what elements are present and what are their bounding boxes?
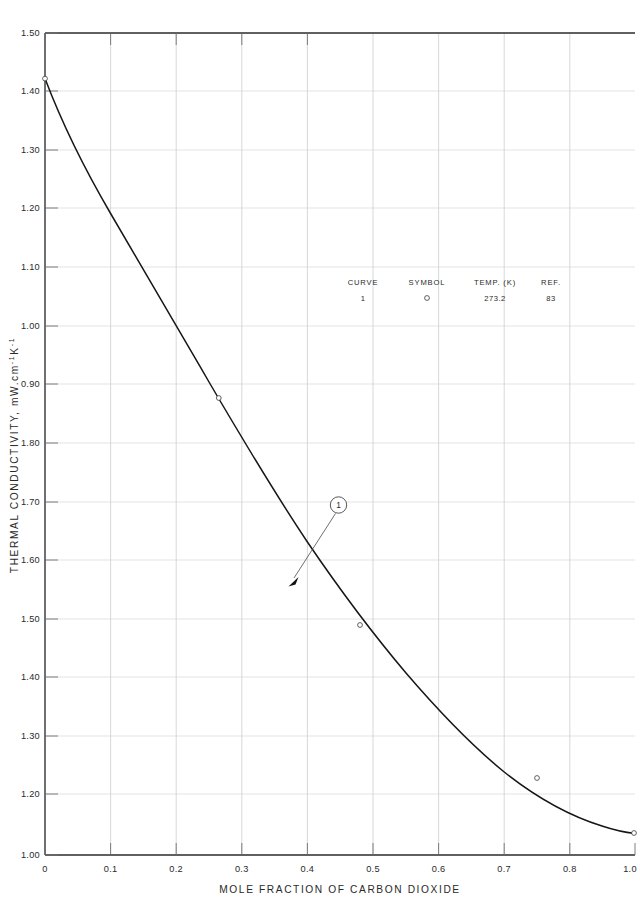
y-axis-title-main: THERMAL CONDUCTIVITY, mW.cm	[9, 364, 20, 573]
data-point-markers	[43, 76, 637, 835]
x-tick-label: 0.2	[169, 864, 183, 874]
y-tick-label: 1.20	[21, 789, 40, 799]
y-tick-label: 1.20	[21, 203, 40, 213]
data-point-marker	[43, 76, 48, 81]
y-tick-label: 1.50	[21, 614, 40, 624]
x-tick-label: 0.5	[366, 864, 380, 874]
figure-container: 1.50 1.40 1.30 1.20 1.10 1.00 0.90 1.80 …	[0, 0, 640, 908]
x-tick-label: 0.7	[497, 864, 511, 874]
y-tick-label: 1.30	[21, 145, 40, 155]
callout-label: 1	[336, 500, 341, 510]
y-tick-label: 1.80	[21, 438, 40, 448]
y-tick-label: 1.00	[21, 850, 40, 860]
x-tick-label: 0.4	[301, 864, 315, 874]
y-tick-label: 0.90	[21, 379, 40, 389]
legend-symbol-open-circle-icon	[425, 296, 430, 301]
legend-header-symbol: SYMBOL	[409, 278, 446, 287]
legend-header-curve: CURVE	[348, 278, 379, 287]
x-tick-label: 0.6	[432, 864, 446, 874]
x-tick-label: 0.1	[104, 864, 118, 874]
legend-cell-curve: 1	[361, 294, 366, 303]
data-point-marker	[358, 623, 363, 628]
data-point-marker	[535, 776, 540, 781]
x-axis-title: MOLE FRACTION OF CARBON DIOXIDE	[219, 884, 460, 895]
svg-text:THERMAL CONDUCTIVITY, mW.cm-1K: THERMAL CONDUCTIVITY, mW.cm-1K-1	[8, 337, 20, 573]
x-axis-tick-labels: 0 0.1 0.2 0.3 0.4 0.5 0.6 0.7 0.8 1.0	[42, 864, 637, 874]
x-tick-label: 1.0	[623, 864, 637, 874]
horizontal-gridlines	[45, 91, 635, 794]
vertical-gridlines	[111, 33, 570, 855]
x-tick-label: 0.8	[563, 864, 577, 874]
y-tick-label: 1.40	[21, 672, 40, 682]
legend-cell-temp: 273.2	[484, 294, 506, 303]
y-tick-label: 1.50	[21, 28, 40, 38]
legend-row: 1 273.2 83	[361, 294, 556, 303]
y-tick-label: 1.10	[21, 262, 40, 272]
callout-arrowhead-icon	[289, 577, 299, 587]
curve-callout-1: 1	[289, 497, 347, 587]
x-tick-label: 0	[42, 864, 47, 874]
x-axis-ticks	[45, 33, 635, 855]
y-tick-label: 1.40	[21, 86, 40, 96]
y-tick-label: 1.00	[21, 321, 40, 331]
y-axis-title-exp1: -1	[8, 355, 15, 364]
data-curve-1	[45, 79, 635, 834]
y-axis-ticks	[45, 33, 58, 855]
y-axis-title-k: K	[9, 346, 20, 354]
y-tick-label: 1.30	[21, 731, 40, 741]
y-tick-label: 1.70	[21, 497, 40, 507]
y-axis-tick-labels: 1.50 1.40 1.30 1.20 1.10 1.00 0.90 1.80 …	[21, 28, 40, 860]
axis-frame	[45, 33, 635, 855]
legend-cell-ref: 83	[546, 294, 555, 303]
x-tick-label: 0.3	[235, 864, 249, 874]
legend-header-ref: REF.	[541, 278, 561, 287]
chart-svg: 1.50 1.40 1.30 1.20 1.10 1.00 0.90 1.80 …	[0, 0, 640, 908]
y-axis-title: THERMAL CONDUCTIVITY, mW.cm-1K-1	[8, 337, 20, 573]
data-point-marker	[632, 831, 637, 836]
legend-header-temp: TEMP. (K)	[474, 278, 516, 287]
y-tick-label: 1.60	[21, 555, 40, 565]
legend-table: CURVE SYMBOL TEMP. (K) REF. 1 273.2 83	[348, 278, 561, 303]
data-point-marker	[216, 396, 221, 401]
y-axis-title-exp2: -1	[8, 337, 15, 346]
